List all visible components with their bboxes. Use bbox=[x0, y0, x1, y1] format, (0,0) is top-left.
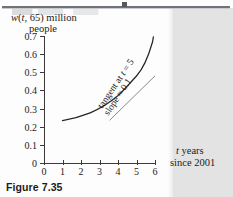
y-tick-label: 0.5 bbox=[9, 67, 37, 78]
x-axis-title: t years bbox=[176, 145, 204, 157]
x-axis-title-rest: years bbox=[179, 145, 204, 156]
y-tick-mark bbox=[40, 54, 45, 55]
y-tick-label: 0.6 bbox=[9, 49, 37, 60]
x-tick-mark bbox=[118, 160, 119, 165]
x-tick-label: 2 bbox=[73, 166, 89, 177]
y-tick-mark bbox=[40, 145, 45, 146]
y-tick-mark bbox=[40, 109, 45, 110]
y-tick-label: 0.4 bbox=[9, 85, 37, 96]
x-tick-mark bbox=[155, 160, 156, 165]
x-tick-mark bbox=[81, 160, 82, 165]
y-tick-mark bbox=[40, 90, 45, 91]
figure-page: w(t, 65) million people 0.7 0.6 0.5 0.4 … bbox=[0, 0, 233, 197]
y-tick-label: 0.7 bbox=[9, 31, 37, 42]
y-tick-mark bbox=[40, 36, 45, 37]
y-tick-mark bbox=[40, 72, 45, 73]
x-tick-label: 1 bbox=[55, 166, 71, 177]
figure-caption: Figure 7.35 bbox=[6, 181, 63, 193]
y-tick-label: 0 bbox=[9, 158, 37, 169]
y-tick-mark bbox=[40, 127, 45, 128]
y-tick-label: 0.1 bbox=[9, 140, 37, 151]
y-tick-label: 0.3 bbox=[9, 104, 37, 115]
x-tick-label: 3 bbox=[92, 166, 108, 177]
y-tick-label: 0.2 bbox=[9, 122, 37, 133]
x-tick-mark bbox=[137, 160, 138, 165]
x-tick-label: 4 bbox=[110, 166, 126, 177]
x-tick-mark bbox=[63, 160, 64, 165]
x-tick-mark bbox=[100, 160, 101, 165]
x-tick-label: 0 bbox=[36, 166, 52, 177]
x-tick-label: 6 bbox=[147, 166, 163, 177]
x-tick-mark bbox=[44, 160, 45, 165]
x-axis-title-line2: since 2001 bbox=[170, 157, 215, 169]
x-tick-label: 5 bbox=[129, 166, 145, 177]
